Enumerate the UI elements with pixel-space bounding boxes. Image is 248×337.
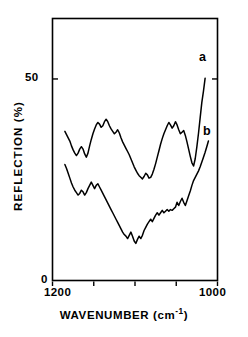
data-series-group (65, 78, 209, 243)
x-axis-label: WAVENUMBER (cm-1) (0, 307, 248, 321)
x-tick-label-1000: 1000 (199, 286, 226, 298)
x-axis-label-exponent: -1 (175, 307, 184, 316)
series-annotation-a: a (199, 50, 206, 64)
reflection-spectrum-figure: REFLECTION (%) WAVENUMBER (cm-1) 50 0 12… (0, 0, 248, 337)
x-axis-label-close: ) (184, 309, 188, 321)
x-axis-ticks (53, 282, 218, 287)
series-line-a (65, 78, 205, 179)
x-axis-label-main: WAVENUMBER (cm (60, 309, 176, 321)
x-tick-label-1200: 1200 (44, 286, 71, 298)
series-annotation-b: b (203, 124, 211, 138)
y-tick-label-50: 50 (25, 71, 38, 83)
y-tick-label-0: 0 (41, 273, 48, 285)
y-axis-label: REFLECTION (%) (12, 96, 24, 216)
